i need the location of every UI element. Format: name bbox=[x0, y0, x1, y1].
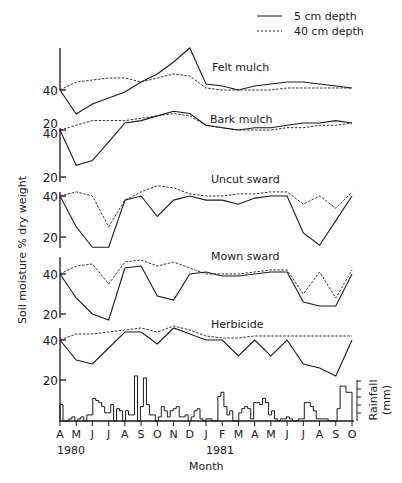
x-axis-label: Month bbox=[189, 460, 224, 473]
panel-label-felt-mulch: Felt mulch bbox=[212, 61, 269, 74]
x-tick-label: O bbox=[348, 428, 357, 441]
series-40cm-line bbox=[60, 114, 352, 131]
x-tick-label: A bbox=[251, 428, 259, 441]
x-tick-label: M bbox=[266, 428, 276, 441]
soil-moisture-chart: 5 cm depth 40 cm depth Soil moisture % d… bbox=[0, 0, 402, 483]
series-40cm-line bbox=[60, 74, 352, 90]
svg-text:20: 20 bbox=[43, 308, 58, 322]
legend-solid-label: 5 cm depth bbox=[294, 10, 357, 23]
y-axis-label: Soil moisture % dry weight bbox=[16, 175, 29, 324]
year-1980: 1980 bbox=[57, 444, 85, 457]
x-tick-label: S bbox=[138, 428, 145, 441]
series-5cm-line bbox=[60, 111, 352, 165]
x-tick-label: J bbox=[106, 428, 110, 441]
x-axis-ticks: AMJJASONDJFMAMJJASO bbox=[56, 421, 356, 441]
series-5cm-line bbox=[60, 48, 352, 114]
x-tick-label: J bbox=[301, 428, 305, 441]
panel-label-uncut-sward: Uncut sward bbox=[211, 173, 280, 186]
svg-text:40: 40 bbox=[43, 268, 58, 282]
svg-text:20: 20 bbox=[43, 231, 58, 245]
rainfall-label: Rainfall bbox=[367, 380, 380, 421]
x-tick-label: D bbox=[186, 428, 194, 441]
rainfall-bars bbox=[60, 376, 352, 421]
svg-text:20: 20 bbox=[43, 374, 58, 388]
x-tick-label: M bbox=[234, 428, 244, 441]
panel-label-herbicide: Herbicide bbox=[211, 318, 264, 331]
year-1981: 1981 bbox=[206, 444, 234, 457]
series-40cm-line bbox=[60, 260, 352, 298]
series-40cm-line bbox=[60, 186, 352, 227]
panel-label-bark-mulch: Bark mulch bbox=[210, 113, 272, 126]
y-tick-labels: 40 20 40 20 40 20 40 20 40 20 bbox=[43, 84, 58, 388]
series-5cm-line bbox=[60, 328, 352, 376]
rainfall-histogram bbox=[60, 376, 352, 421]
svg-text:40: 40 bbox=[43, 334, 58, 348]
legend: 5 cm depth 40 cm depth bbox=[257, 10, 364, 38]
svg-text:20: 20 bbox=[43, 171, 58, 185]
rainfall-unit: (mm) bbox=[380, 385, 393, 415]
x-tick-label: A bbox=[121, 428, 129, 441]
svg-text:40: 40 bbox=[43, 84, 58, 98]
x-tick-label: A bbox=[56, 428, 64, 441]
x-tick-label: A bbox=[316, 428, 324, 441]
x-tick-label: J bbox=[90, 428, 94, 441]
svg-text:40: 40 bbox=[43, 127, 58, 141]
x-tick-label: S bbox=[332, 428, 339, 441]
series-5cm-line bbox=[60, 196, 352, 247]
panel-label-mown-sward: Mown sward bbox=[211, 250, 279, 263]
series-40cm-line bbox=[60, 326, 352, 340]
panel-axes bbox=[60, 48, 66, 422]
x-tick-label: N bbox=[169, 428, 177, 441]
rainfall-axis bbox=[357, 380, 361, 421]
x-tick-label: J bbox=[203, 428, 207, 441]
x-tick-label: F bbox=[219, 428, 225, 441]
legend-dashed-label: 40 cm depth bbox=[294, 25, 364, 38]
x-tick-label: J bbox=[284, 428, 288, 441]
series-lines bbox=[60, 48, 352, 376]
svg-text:40: 40 bbox=[43, 190, 58, 204]
x-tick-label: O bbox=[153, 428, 162, 441]
x-tick-label: M bbox=[71, 428, 81, 441]
